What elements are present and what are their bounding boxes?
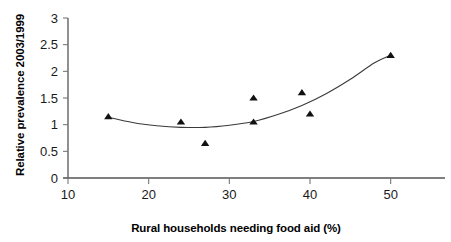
data-point-marker: [298, 89, 306, 95]
y-tick-label: 1: [51, 117, 58, 132]
data-point-marker: [249, 94, 257, 100]
chart-figure: Relative prevalence 2003/1999 Rural hous…: [0, 0, 451, 242]
data-point-marker: [386, 52, 394, 58]
x-tick-label: 40: [303, 187, 317, 202]
x-tick-label: 10: [61, 187, 75, 202]
y-tick-label: 0: [51, 171, 58, 186]
y-tick-label: 2: [51, 64, 58, 79]
y-tick-label: 2.5: [40, 37, 58, 52]
x-tick-label: 30: [222, 187, 236, 202]
y-tick-label: 3: [51, 11, 58, 26]
data-point-marker: [201, 140, 209, 146]
y-tick-label: 1.5: [40, 91, 58, 106]
x-tick-label: 20: [141, 187, 155, 202]
data-point-marker: [177, 118, 185, 124]
fit-curve: [108, 55, 390, 127]
y-axis-title: Relative prevalence 2003/1999: [14, 14, 26, 176]
data-point-marker: [249, 118, 257, 124]
y-tick-label: 0.5: [40, 144, 58, 159]
x-axis-title: Rural households needing food aid (%): [131, 222, 341, 234]
x-tick-label: 50: [383, 187, 397, 202]
scatter-plot: Relative prevalence 2003/1999 Rural hous…: [0, 0, 451, 242]
data-point-marker: [104, 113, 112, 119]
data-point-marker: [306, 110, 314, 116]
